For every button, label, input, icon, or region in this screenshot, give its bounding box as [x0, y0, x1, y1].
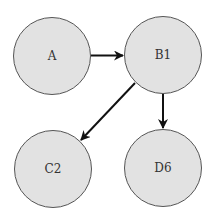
node-d6-label: D6 [154, 161, 171, 175]
node-a: A [14, 18, 91, 95]
node-a-label: A [47, 49, 57, 63]
edge-b1-c2 [81, 83, 135, 140]
node-d6: D6 [125, 130, 202, 207]
graph-diagram: A B1 C2 D6 [0, 0, 214, 222]
node-c2: C2 [15, 131, 92, 208]
node-b1-label: B1 [155, 48, 171, 62]
node-c2-label: C2 [45, 162, 62, 176]
node-b1: B1 [125, 17, 202, 94]
